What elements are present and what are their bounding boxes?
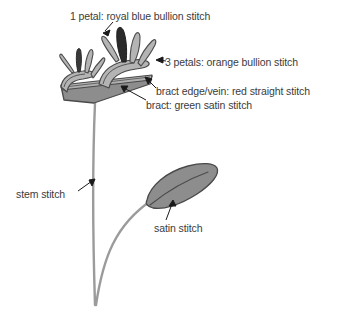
petal-dark-l: [76, 49, 81, 72]
flower-diagram: [0, 0, 354, 313]
leaf-shape: [146, 164, 217, 209]
arrowhead-blue-petal: [103, 30, 110, 36]
annotation-leaf: satin stitch: [154, 222, 202, 234]
petal-blue: [117, 27, 127, 62]
leaf-stem-path: [96, 200, 152, 305]
stem-group: [93, 103, 152, 305]
leader-bract-body: [124, 88, 146, 100]
petal-orange-r2: [130, 33, 140, 63]
arrowhead-orange-petals: [156, 57, 163, 63]
illustration-canvas: 1 petal: royal blue bullion stitch 3 pet…: [0, 0, 354, 313]
annotation-bract-edge: bract edge/vein: red straight stitch: [156, 85, 310, 97]
annotation-blue-petal: 1 petal: royal blue bullion stitch: [70, 10, 210, 22]
annotation-orange-petals: 3 petals: orange bullion stitch: [165, 56, 298, 68]
annotation-bract-body: bract: green satin stitch: [146, 99, 252, 111]
annotation-stem: stem stitch: [16, 188, 65, 200]
leader-blue-petal: [105, 22, 113, 31]
petal-orange-l2: [85, 50, 93, 73]
main-stem-path: [93, 103, 95, 305]
leaf-group: [146, 164, 217, 209]
petal-orange-l1: [60, 54, 74, 73]
